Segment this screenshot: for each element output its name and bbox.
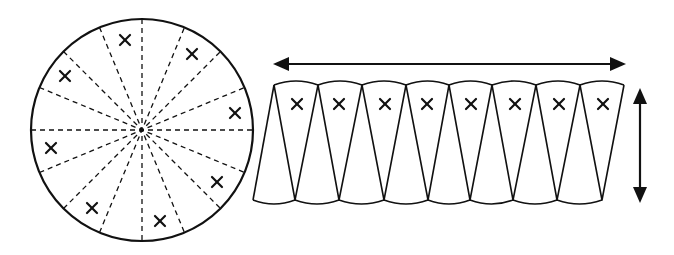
x-mark-icon: [60, 71, 70, 81]
rearranged-sectors: [253, 81, 624, 204]
diagram-stage: Circle divided into 16 sectors rearrange…: [0, 0, 674, 255]
arrow-down-icon: [633, 187, 647, 203]
x-mark-icon: [380, 99, 390, 109]
diagram-canvas: [0, 0, 674, 255]
x-mark-icon: [292, 99, 302, 109]
x-mark-icon: [120, 35, 130, 45]
x-mark-icon: [598, 99, 608, 109]
x-mark-icon: [212, 177, 222, 187]
arrow-up-icon: [633, 88, 647, 104]
x-mark-icon: [155, 216, 165, 226]
x-mark-icon: [187, 49, 197, 59]
circle-with-sectors: [31, 19, 253, 241]
left-edge: [253, 85, 274, 200]
x-mark-icon: [466, 99, 476, 109]
x-mark-icon: [46, 143, 56, 153]
arrow-left-icon: [273, 57, 289, 71]
sector-zigzag: [274, 85, 624, 200]
horizontal-double-arrow: [273, 57, 626, 71]
x-mark-icon: [87, 203, 97, 213]
x-mark-icon: [510, 99, 520, 109]
x-mark-icon: [554, 99, 564, 109]
x-mark-icon: [334, 99, 344, 109]
x-mark-icon: [230, 108, 240, 118]
vertical-double-arrow: [633, 88, 647, 203]
x-mark-icon: [422, 99, 432, 109]
arrow-right-icon: [610, 57, 626, 71]
